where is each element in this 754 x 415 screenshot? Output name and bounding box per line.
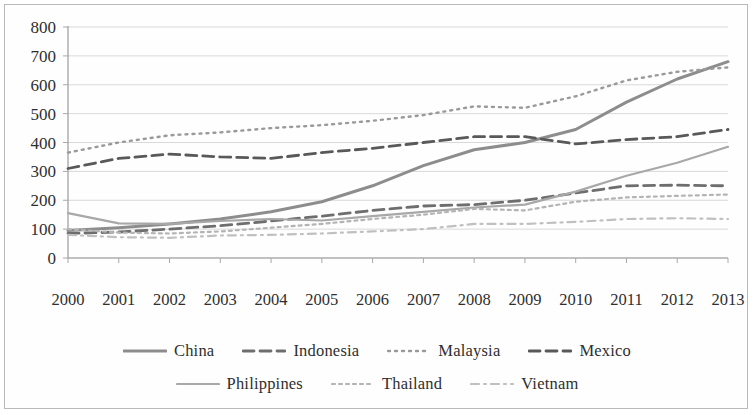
series-line-indonesia [68, 185, 728, 233]
y-tick-label: 800 [31, 18, 57, 37]
legend-label: Mexico [579, 341, 631, 361]
line-dashed-swatch [528, 346, 572, 356]
chart-svg: 8007006005004003002001000 20002001200220… [0, 0, 754, 334]
legend-item-malaysia[interactable]: Malaysia [387, 341, 500, 361]
legend-label: Thailand [382, 374, 442, 394]
legend-item-indonesia[interactable]: Indonesia [242, 341, 359, 361]
x-tick-label: 2005 [305, 290, 338, 309]
y-tick-label: 300 [31, 162, 57, 181]
legend-label: Indonesia [293, 341, 359, 361]
chart-legend: ChinaIndonesiaMalaysiaMexicoPhilippinesT… [0, 334, 754, 400]
x-tick-label: 2002 [153, 290, 186, 309]
legend-item-china[interactable]: China [123, 341, 214, 361]
x-tick-label: 2006 [356, 290, 389, 309]
legend-row: ChinaIndonesiaMalaysiaMexico [0, 334, 754, 367]
x-axis-tick-labels: 2000200120022003200420052006200720082009… [52, 290, 745, 309]
line-dashed-swatch [242, 346, 286, 356]
y-axis-tick-labels: 8007006005004003002001000 [31, 18, 57, 268]
x-tick-label: 2011 [610, 290, 642, 309]
legend-label: China [174, 341, 214, 361]
x-tick-label: 2004 [255, 290, 288, 309]
x-tick-label: 2000 [52, 290, 85, 309]
legend-item-philippines[interactable]: Philippines [176, 374, 303, 394]
y-tick-label: 600 [31, 76, 57, 95]
y-tick-label: 100 [31, 220, 57, 239]
y-tick-label: 400 [31, 134, 57, 153]
x-tick-label: 2008 [458, 290, 491, 309]
x-tick-label: 2013 [712, 290, 745, 309]
legend-item-thailand[interactable]: Thailand [331, 374, 442, 394]
line-solid-light-swatch [176, 379, 220, 389]
line-dotted-swatch [387, 346, 431, 356]
legend-row: PhilippinesThailandVietnam [0, 367, 754, 400]
legend-item-mexico[interactable]: Mexico [528, 341, 631, 361]
legend-label: Philippines [227, 374, 303, 394]
x-tick-label: 2010 [559, 290, 592, 309]
y-tick-label: 700 [31, 47, 57, 66]
x-tick-label: 2001 [102, 290, 135, 309]
legend-label: Malaysia [438, 341, 500, 361]
x-tick-label: 2009 [508, 290, 541, 309]
y-tick-label: 0 [48, 249, 57, 268]
x-tick-label: 2007 [407, 290, 440, 309]
legend-item-vietnam[interactable]: Vietnam [470, 374, 578, 394]
line-dotted-light-swatch [331, 379, 375, 389]
legend-label: Vietnam [521, 374, 578, 394]
series-line-vietnam [68, 218, 728, 238]
x-tick-label: 2012 [661, 290, 694, 309]
y-tick-label: 200 [31, 191, 57, 210]
data-series-group [68, 62, 728, 238]
x-tick-label: 2003 [204, 290, 237, 309]
line-solid-swatch [123, 346, 167, 356]
y-tick-label: 500 [31, 105, 57, 124]
line-dash-dot-swatch [470, 379, 514, 389]
